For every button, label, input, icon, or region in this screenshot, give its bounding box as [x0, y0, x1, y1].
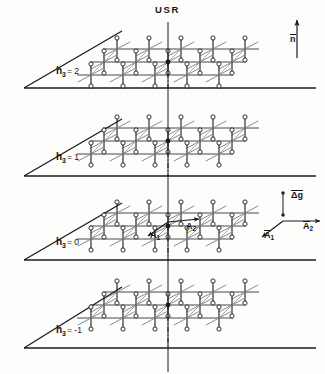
motif-node-top	[179, 115, 183, 119]
motif-node-top	[115, 115, 119, 119]
motif-node-bottom	[153, 327, 157, 331]
motif-node-top	[198, 49, 202, 53]
motif-node-bottom	[211, 58, 215, 62]
motif-node-top	[121, 62, 125, 66]
motif-node-top	[115, 279, 119, 283]
motif-node-top	[102, 128, 106, 132]
plane-label-eq: = -1	[67, 325, 82, 335]
motif-node-top	[230, 213, 234, 217]
a2-label-text: A	[303, 222, 310, 231]
motif-node-bottom	[230, 314, 234, 318]
motif-node-top	[211, 36, 215, 40]
motif-node-top	[198, 292, 202, 296]
motif-node-top	[89, 141, 93, 145]
motif-node-bottom	[89, 163, 93, 167]
motif-node-bottom	[230, 71, 234, 75]
motif-node-bottom	[102, 71, 106, 75]
a1-axis-label: A1	[264, 231, 274, 242]
motif-node-bottom	[115, 301, 119, 305]
motif-node-bottom	[153, 248, 157, 252]
motif-node-bottom	[211, 137, 215, 141]
motif-node-bottom	[217, 248, 221, 252]
motif-node-bottom	[179, 58, 183, 62]
diagram-svg	[0, 0, 325, 374]
motif-node-bottom	[185, 163, 189, 167]
page-title: USR	[155, 5, 180, 15]
motif-node-top	[211, 200, 215, 204]
motif-node-bottom	[102, 235, 106, 239]
motif-node-top	[211, 115, 215, 119]
motif-node-top	[147, 279, 151, 283]
plane-label-h3-0: h3= 0	[56, 237, 79, 249]
motif-node-bottom	[153, 84, 157, 88]
motif-node-top	[217, 141, 221, 145]
motif-node-top	[230, 292, 234, 296]
motif-node-bottom	[198, 314, 202, 318]
motif-node-top	[230, 49, 234, 53]
a2-axis-label: A2	[303, 222, 313, 233]
motif-node-bottom	[147, 222, 151, 226]
motif-node-top	[102, 213, 106, 217]
motif-node-bottom	[102, 150, 106, 154]
motif-node-bottom	[134, 150, 138, 154]
motif-node-bottom	[230, 150, 234, 154]
motif-node-bottom	[198, 71, 202, 75]
motif-node-top	[102, 49, 106, 53]
motif-node-bottom	[185, 248, 189, 252]
motif-node-bottom	[217, 163, 221, 167]
delta-g-label-text: Δg	[291, 191, 303, 200]
motif-node-bottom	[211, 301, 215, 305]
motif-node-top	[121, 305, 125, 309]
a2-inplane-label: A2	[186, 222, 196, 233]
delta-g-vector-label: Δg	[291, 191, 303, 200]
motif-node-top	[134, 128, 138, 132]
motif-node-top	[89, 62, 93, 66]
motif-node-bottom	[134, 71, 138, 75]
motif-node-top	[217, 62, 221, 66]
a2-inplane-sub: 2	[193, 225, 197, 232]
motif-node-top	[134, 213, 138, 217]
motif-node-bottom	[217, 327, 221, 331]
plane-label-eq: = 1	[67, 152, 79, 162]
motif-node-top	[230, 128, 234, 132]
motif-node-top	[121, 226, 125, 230]
motif-node-bottom	[121, 327, 125, 331]
motif-node-bottom	[115, 58, 119, 62]
motif-node-top	[198, 128, 202, 132]
motif-node-bottom	[115, 137, 119, 141]
motif-node-bottom	[179, 222, 183, 226]
motif-node-top	[115, 200, 119, 204]
motif-node-top	[179, 200, 183, 204]
plane-label-h3-m1: h3= -1	[56, 325, 82, 337]
motif-node-top	[243, 115, 247, 119]
plane-label-h3-2: h3= 2	[56, 66, 79, 78]
motif-node-bottom	[115, 222, 119, 226]
motif-node-bottom	[147, 137, 151, 141]
motif-node-top	[147, 36, 151, 40]
motif-node-top	[147, 115, 151, 119]
planes-group	[24, 31, 316, 348]
motif-node-top	[153, 62, 157, 66]
figure-canvas: USR h3= 2 h3= 1 h3= 0 h3= -1 n Δg A1 A2 …	[0, 0, 325, 374]
motif-node-top	[153, 141, 157, 145]
plane-label-sub: 3	[62, 242, 66, 249]
motif-node-bottom	[243, 137, 247, 141]
motif-node-top	[198, 213, 202, 217]
motif-node-top	[153, 305, 157, 309]
a1-label-text: A	[264, 231, 271, 240]
motif-node-bottom	[230, 235, 234, 239]
a1-inplane-label: A1	[150, 231, 160, 242]
motif-node-top	[89, 305, 93, 309]
motif-node-bottom	[211, 222, 215, 226]
plane-label-h3-1: h3= 1	[56, 152, 79, 164]
motif-node-top	[134, 292, 138, 296]
plane-label-eq: = 2	[67, 66, 79, 76]
motif-node-bottom	[121, 84, 125, 88]
motif-node-bottom	[243, 222, 247, 226]
motif-node-top	[217, 305, 221, 309]
motif-node-top	[243, 200, 247, 204]
motif-node-bottom	[121, 163, 125, 167]
motif-node-top	[89, 226, 93, 230]
a2-label-sub: 2	[310, 225, 314, 232]
motif-node-bottom	[147, 301, 151, 305]
